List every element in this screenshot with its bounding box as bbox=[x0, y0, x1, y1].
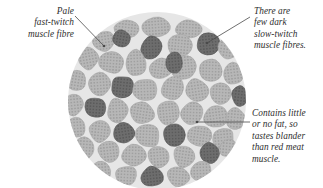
tissue-disc bbox=[63, 12, 249, 188]
label-fat-content: Contains little or no fat, so tastes bla… bbox=[252, 108, 322, 165]
figure-canvas: Pale fast-twitch muscle fibre There are … bbox=[0, 0, 323, 188]
label-pale-fast-twitch-fibre: Pale fast-twitch muscle fibre bbox=[2, 6, 74, 40]
fast-twitch-fibre-cell bbox=[115, 166, 137, 186]
slow-twitch-fibre-cell bbox=[163, 124, 185, 147]
label-dark-slow-twitch-fibres: There are few dark slow-twitch muscle fi… bbox=[254, 6, 322, 52]
fast-twitch-fibre-cell bbox=[65, 117, 86, 138]
fast-twitch-fibre-cell bbox=[132, 79, 157, 101]
